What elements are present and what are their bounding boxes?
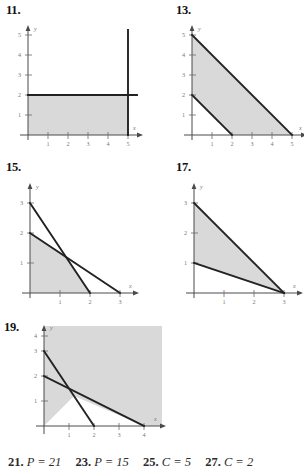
y-ticklabel-13-3: 3 — [182, 71, 185, 78]
x-ticklabel-11-2: 2 — [66, 140, 69, 147]
figure-number-15: 15. — [6, 160, 21, 175]
plot-area-19: 1 2 3 4 1 2 3 4 y x — [30, 322, 170, 452]
y-ticklabel-17-1: 1 — [184, 259, 187, 266]
x-axis-label-17: x — [292, 282, 296, 289]
x-axis-arrow-11 — [137, 133, 143, 138]
y-axis-arrow-11 — [26, 25, 31, 31]
answer-item-27: 27. C = 2 — [205, 455, 253, 470]
answer-list: 21. P = 21 23. P = 15 25. C = 5 27. C = … — [8, 455, 264, 470]
y-ticklabel-15-2: 2 — [20, 229, 23, 236]
y-axis-label-11: y — [33, 25, 37, 32]
x-ticklabel-11-5: 5 — [126, 140, 129, 147]
x-ticklabel-11-3: 3 — [86, 140, 89, 147]
answer-item-21: 21. P = 21 — [8, 455, 61, 470]
answer-key-page: 11. 1 2 3 4 5 — [0, 0, 304, 471]
figure-number-17: 17. — [176, 160, 191, 175]
x-ticklabel-19-1: 1 — [67, 431, 70, 438]
figure-number-19: 19. — [4, 320, 19, 335]
x-ticklabel-13-5: 5 — [290, 140, 293, 147]
y-ticklabel-13-2: 2 — [182, 91, 185, 98]
x-ticklabel-13-4: 4 — [270, 140, 273, 147]
x-ticklabel-11-4: 4 — [106, 140, 109, 147]
y-axis-label-19: y — [49, 324, 53, 331]
y-ticklabel-15-1: 1 — [20, 259, 23, 266]
y-ticklabel-11-1: 1 — [18, 111, 21, 118]
answer-value-25: C = 5 — [162, 455, 191, 469]
x-ticklabel-13-1: 1 — [210, 140, 213, 147]
y-ticklabel-13-1: 1 — [182, 111, 185, 118]
x-axis-arrow-19 — [160, 424, 166, 429]
y-axis-arrow-15 — [28, 183, 33, 189]
x-ticklabel-13-3: 3 — [250, 140, 253, 147]
y-axis-label-15: y — [35, 183, 39, 190]
x-ticklabel-15-3: 3 — [118, 298, 121, 305]
plot-area-15: 1 2 3 1 2 3 y x — [14, 180, 144, 305]
y-ticklabel-11-4: 4 — [18, 51, 21, 58]
answer-number-23: 23. — [75, 455, 91, 469]
x-ticklabel-17-3: 3 — [282, 298, 285, 305]
answer-value-27: C = 2 — [224, 455, 253, 469]
y-ticklabel-19-4: 4 — [34, 332, 37, 339]
figure-panel-15: 15. 1 2 3 1 2 3 y x — [0, 158, 152, 320]
answer-item-25: 25. C = 5 — [143, 455, 191, 470]
plot-area-11: 1 2 3 4 5 1 2 3 4 5 y x — [14, 22, 144, 147]
x-ticklabel-19-2: 2 — [92, 431, 95, 438]
y-ticklabel-15-3: 3 — [20, 199, 23, 206]
plot-area-17: 1 2 3 1 2 3 y x — [178, 180, 304, 305]
answer-value-23: P = 15 — [94, 455, 129, 469]
x-ticklabel-19-4: 4 — [142, 431, 145, 438]
x-axis-label-11: x — [132, 124, 136, 131]
feasible-region-11 — [28, 95, 128, 135]
y-ticklabel-11-2: 2 — [18, 91, 21, 98]
y-ticklabel-19-2: 2 — [34, 372, 37, 379]
figure-number-11: 11. — [6, 3, 20, 18]
y-axis-label-17: y — [199, 183, 203, 190]
x-ticklabel-15-2: 2 — [88, 298, 91, 305]
y-ticklabel-19-1: 1 — [34, 397, 37, 404]
figure-panel-11: 11. 1 2 3 4 5 — [0, 0, 152, 160]
y-ticklabel-13-4: 4 — [182, 51, 185, 58]
y-axis-label-13: y — [197, 25, 201, 32]
x-ticklabel-11-1: 1 — [46, 140, 49, 147]
answer-number-27: 27. — [205, 455, 221, 469]
y-ticklabel-17-2: 2 — [184, 229, 187, 236]
answer-row-clipped: 21. P = 21 23. P = 15 25. C = 5 27. C = … — [0, 455, 304, 471]
x-ticklabel-17-2: 2 — [252, 298, 255, 305]
x-axis-label-13: x — [298, 124, 302, 131]
plot-area-13: 1 2 3 4 5 1 2 3 4 5 y x — [178, 22, 304, 147]
x-axis-arrow-15 — [133, 291, 139, 296]
answer-number-25: 25. — [143, 455, 159, 469]
feasible-region-15 — [30, 233, 90, 293]
figure-panel-13: 13. 1 2 3 4 5 — [152, 0, 304, 160]
figure-number-13: 13. — [176, 3, 191, 18]
y-ticklabel-19-3: 3 — [34, 347, 37, 354]
answer-number-21: 21. — [8, 455, 24, 469]
y-axis-arrow-17 — [192, 183, 197, 189]
figure-panel-19: 19. 1 2 3 4 1 2 — [0, 318, 180, 458]
x-axis-arrow-13 — [301, 133, 304, 138]
x-axis-label-15: x — [128, 282, 132, 289]
x-ticklabel-13-2: 2 — [230, 140, 233, 147]
x-axis-label-19: x — [153, 415, 157, 422]
x-ticklabel-15-1: 1 — [58, 298, 61, 305]
y-ticklabel-11-3: 3 — [18, 71, 21, 78]
x-axis-arrow-17 — [297, 291, 303, 296]
y-ticklabel-11-5: 5 — [18, 31, 21, 38]
x-ticklabel-19-3: 3 — [117, 431, 120, 438]
x-ticklabel-17-1: 1 — [222, 298, 225, 305]
y-axis-arrow-13 — [190, 25, 195, 31]
y-ticklabel-17-3: 3 — [184, 199, 187, 206]
answer-value-21: P = 21 — [27, 455, 62, 469]
y-ticklabel-13-5: 5 — [182, 31, 185, 38]
figure-panel-17: 17. 1 2 3 1 2 3 y x — [152, 158, 304, 320]
answer-item-23: 23. P = 15 — [75, 455, 128, 470]
